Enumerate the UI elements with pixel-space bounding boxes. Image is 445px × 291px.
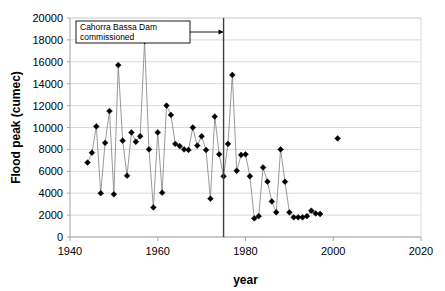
chart-canvas: 0200040006000800010000120001400016000180… xyxy=(0,0,445,291)
x-tick-label: 1940 xyxy=(58,245,82,257)
x-axis-title: year xyxy=(233,273,258,287)
y-tick-label: 10000 xyxy=(32,122,63,134)
x-tick-label: 1980 xyxy=(233,245,257,257)
y-tick-label: 16000 xyxy=(32,56,63,68)
y-tick-label: 4000 xyxy=(39,187,63,199)
y-tick-label: 8000 xyxy=(39,143,63,155)
x-tick-label: 2020 xyxy=(409,245,433,257)
y-tick-label: 20000 xyxy=(32,12,63,24)
y-tick-label: 12000 xyxy=(32,100,63,112)
y-tick-label: 0 xyxy=(57,231,63,243)
annotation-text-line1: Cahorra Bassa Dam xyxy=(80,22,157,32)
flood-peak-chart: 0200040006000800010000120001400016000180… xyxy=(0,0,445,291)
y-tick-label: 6000 xyxy=(39,165,63,177)
y-axis-title: Flood peak (cumec) xyxy=(9,71,23,184)
y-tick-label: 18000 xyxy=(32,34,63,46)
x-tick-label: 2000 xyxy=(321,245,345,257)
y-tick-label: 14000 xyxy=(32,78,63,90)
annotation-text-line2: commissioned xyxy=(80,32,135,42)
x-tick-label: 1960 xyxy=(146,245,170,257)
y-tick-label: 2000 xyxy=(39,209,63,221)
